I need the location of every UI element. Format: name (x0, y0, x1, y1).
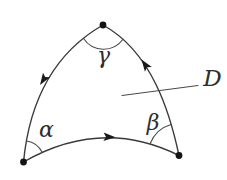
angle-label-beta: β (146, 110, 160, 135)
edge-right-arc (103, 25, 179, 156)
vertex-dot-bottom-left (20, 159, 27, 166)
angle-arc-alpha (27, 141, 43, 153)
vertex-dot-bottom-right (176, 152, 183, 159)
angle-label-alpha: α (39, 117, 54, 142)
orientation-arrow-bottom-icon (103, 133, 115, 142)
diagram-region-d: α β γ D (0, 0, 227, 180)
region-label-d: D (202, 65, 221, 91)
vertex-dot-top (100, 22, 107, 29)
angle-label-gamma: γ (97, 43, 111, 68)
figure-canvas: α β γ D (0, 0, 227, 180)
